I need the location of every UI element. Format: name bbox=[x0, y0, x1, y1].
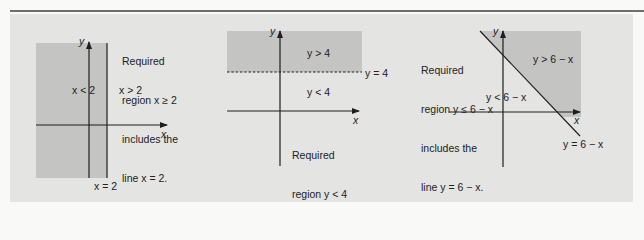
y-axis-label: y bbox=[79, 35, 84, 48]
region-label-y-gt-6-minus-x: y > 6 − x bbox=[533, 53, 573, 66]
note-graph-3: Required region y ≤ 6 − x includes the l… bbox=[421, 38, 493, 207]
x-axis-label: x bbox=[574, 114, 579, 127]
y-axis-label: y bbox=[270, 25, 275, 38]
y-axis-label: y bbox=[493, 25, 498, 38]
shaded-region-x-lt-2 bbox=[36, 43, 107, 178]
boundary-label-y-eq-4: y = 4 bbox=[365, 67, 388, 80]
boundary-label-y-eq-6-minus-x: y = 6 − x bbox=[563, 138, 603, 151]
note-graph-1: Required region x ≥ 2 includes the line … bbox=[122, 29, 178, 198]
shaded-region-y-gt-6-minus-x bbox=[480, 31, 581, 117]
shaded-region-y-gt-4 bbox=[227, 31, 362, 72]
region-label-y-lt-4: y < 4 bbox=[307, 86, 330, 99]
boundary-label-x-eq-2: x = 2 bbox=[94, 180, 117, 193]
note-graph-2: Required region y < 4 does not include t… bbox=[292, 123, 347, 208]
region-label-y-gt-4: y > 4 bbox=[307, 47, 330, 60]
region-label-x-lt-2: x < 2 bbox=[72, 84, 95, 97]
x-axis-label: x bbox=[353, 114, 358, 127]
